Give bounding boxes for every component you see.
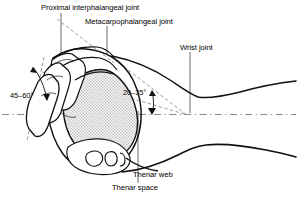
label-thenar-space: Thenar space — [112, 183, 158, 192]
anatomical-diagram-figure: Proximal interphalangeal joint Metacarpo… — [0, 0, 298, 199]
label-metacarpophalangeal-joint: Metacarpophalangeal joint — [85, 17, 173, 26]
wrist-angle-indicator — [148, 90, 156, 115]
label-thumb-angle: 45–60° — [10, 91, 33, 100]
label-wrist-joint: Wrist joint — [180, 43, 213, 52]
label-thenar-web: Thenar web — [133, 170, 173, 179]
label-proximal-interphalangeal-joint: Proximal interphalangeal joint — [41, 3, 139, 12]
label-wrist-angle: 20–35° — [123, 88, 146, 97]
forearm-lower-contour — [122, 144, 296, 172]
